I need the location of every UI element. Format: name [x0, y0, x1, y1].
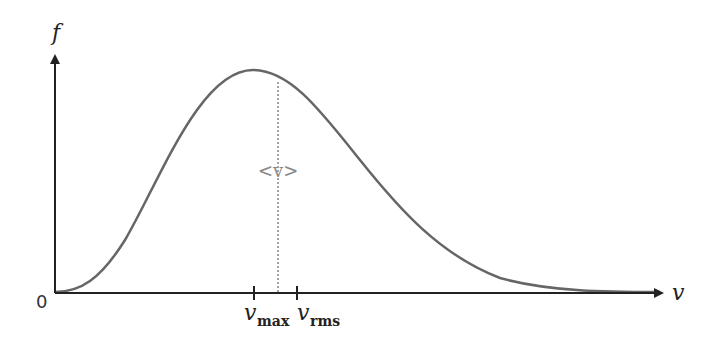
origin-label: 0: [36, 291, 47, 312]
distribution-curve: [55, 70, 660, 292]
tick-label-vrms-sub: rms: [310, 313, 340, 329]
tick-label-vrms-main: v: [297, 300, 310, 325]
x-axis-label: v: [672, 280, 685, 305]
diagram-canvas: f v 0 <v> v max v rms: [0, 0, 712, 338]
tick-label-vmax-main: v: [244, 300, 257, 325]
y-axis-label: f: [50, 20, 64, 45]
mean-label: <v>: [258, 160, 298, 181]
tick-label-vmax-sub: max: [257, 313, 290, 329]
